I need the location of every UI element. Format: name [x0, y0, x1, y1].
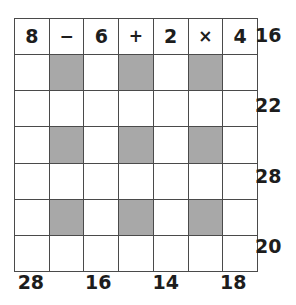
cell-r6c1[interactable]: [15, 199, 50, 235]
row-total-3: 28: [255, 159, 296, 194]
cell-r5c1[interactable]: [15, 163, 50, 199]
cell-r5c4[interactable]: [119, 163, 154, 199]
table-row: [15, 163, 258, 199]
cell-r1c4[interactable]: +: [119, 19, 154, 55]
cell-r1c2[interactable]: −: [49, 19, 84, 55]
cell-r1c5[interactable]: 2: [153, 19, 188, 55]
puzzle-table-body: 8 − 6 + 2 × 4: [15, 19, 258, 272]
cell-r3c7[interactable]: [223, 91, 258, 127]
cell-r2c4[interactable]: [119, 55, 154, 91]
column-total-4: 18: [216, 266, 250, 298]
cell-r5c3[interactable]: [84, 163, 119, 199]
cell-r3c1[interactable]: [15, 91, 50, 127]
table-row: [15, 199, 258, 235]
cell-r6c2[interactable]: [49, 199, 84, 235]
puzzle-table: 8 − 6 + 2 × 4: [14, 18, 258, 272]
cell-r3c5[interactable]: [153, 91, 188, 127]
arithmetic-puzzle-grid: 8 − 6 + 2 × 4: [0, 0, 296, 305]
table-row: 8 − 6 + 2 × 4: [15, 19, 258, 55]
cell-r1c6[interactable]: ×: [188, 19, 223, 55]
cell-r1c1[interactable]: 8: [15, 19, 50, 55]
cell-r5c5[interactable]: [153, 163, 188, 199]
cell-r2c7[interactable]: [223, 55, 258, 91]
cell-r6c6[interactable]: [188, 199, 223, 235]
column-total-3: 14: [149, 266, 183, 298]
column-total-2: 16: [81, 266, 115, 298]
cell-r1c7[interactable]: 4: [223, 19, 258, 55]
row-total-2: 22: [255, 88, 296, 123]
cell-r4c3[interactable]: [84, 127, 119, 163]
cell-r3c2[interactable]: [49, 91, 84, 127]
row-total-4: 20: [255, 229, 296, 264]
cell-r5c2[interactable]: [49, 163, 84, 199]
cell-r3c4[interactable]: [119, 91, 154, 127]
cell-r2c1[interactable]: [15, 55, 50, 91]
cell-r4c5[interactable]: [153, 127, 188, 163]
cell-r4c7[interactable]: [223, 127, 258, 163]
cell-r4c1[interactable]: [15, 127, 50, 163]
table-row: [15, 55, 258, 91]
cell-r6c7[interactable]: [223, 199, 258, 235]
column-total-1: 28: [14, 266, 48, 298]
cell-r6c4[interactable]: [119, 199, 154, 235]
cell-r4c4[interactable]: [119, 127, 154, 163]
cell-r2c2[interactable]: [49, 55, 84, 91]
table-row: [15, 127, 258, 163]
grid-container: 8 − 6 + 2 × 4: [14, 18, 250, 264]
row-totals-column: 16 22 28 20: [255, 18, 296, 264]
cell-r4c6[interactable]: [188, 127, 223, 163]
cell-r6c5[interactable]: [153, 199, 188, 235]
cell-r2c5[interactable]: [153, 55, 188, 91]
column-totals-row: 28 16 14 18: [14, 266, 250, 298]
cell-r3c6[interactable]: [188, 91, 223, 127]
cell-r1c3[interactable]: 6: [84, 19, 119, 55]
cell-r4c2[interactable]: [49, 127, 84, 163]
cell-r5c6[interactable]: [188, 163, 223, 199]
cell-r5c7[interactable]: [223, 163, 258, 199]
table-row: [15, 91, 258, 127]
cell-r2c6[interactable]: [188, 55, 223, 91]
cell-r3c3[interactable]: [84, 91, 119, 127]
row-total-1: 16: [255, 18, 296, 53]
cell-r6c3[interactable]: [84, 199, 119, 235]
cell-r2c3[interactable]: [84, 55, 119, 91]
